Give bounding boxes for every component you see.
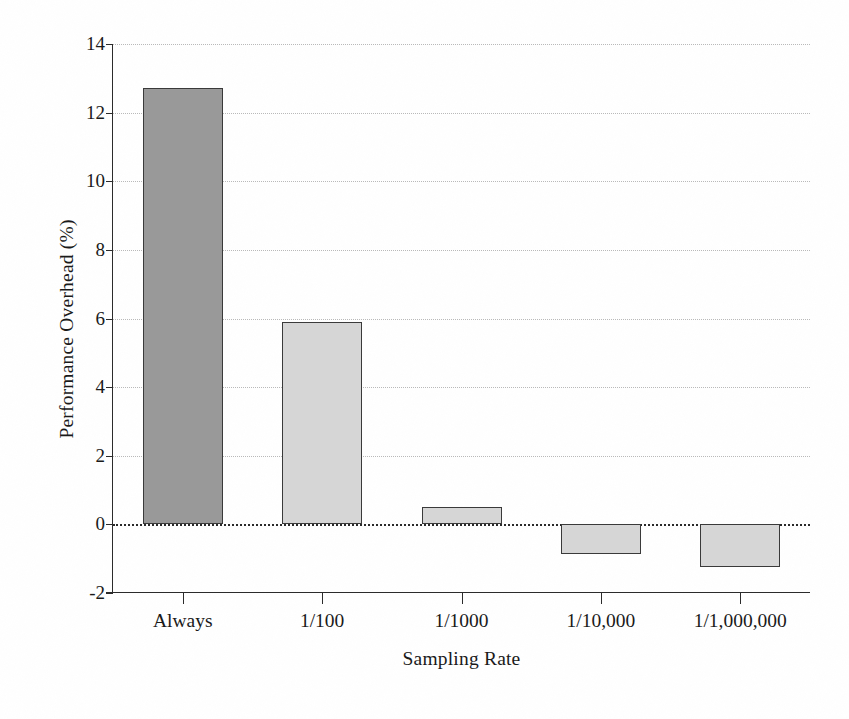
bar-1-1-000-000 — [700, 524, 780, 567]
y-tick-mark — [106, 456, 113, 457]
x-tick-mark — [462, 593, 463, 604]
y-tick-mark — [106, 113, 113, 114]
x-tick-mark — [601, 593, 602, 604]
y-tick-mark — [106, 181, 113, 182]
bar-always — [143, 88, 223, 524]
bar-chart: Performance Overhead (%) Sampling Rate 1… — [0, 0, 849, 719]
y-tick-mark — [106, 593, 113, 594]
y-tick-mark — [106, 524, 113, 525]
y-tick-label: 10 — [45, 170, 105, 192]
bar-1-100 — [282, 322, 362, 524]
plot-area: 14121086420-2 Always1/1001/10001/10,0001… — [113, 44, 810, 593]
y-tick-label: 14 — [45, 33, 105, 55]
y-tick-mark — [106, 319, 113, 320]
y-tick-label: 2 — [45, 445, 105, 467]
x-axis-label: Sampling Rate — [113, 648, 810, 670]
y-tick-label: 0 — [45, 513, 105, 535]
x-tick-mark — [740, 593, 741, 604]
x-tick-mark — [183, 593, 184, 604]
gridline — [113, 44, 810, 45]
y-tick-label: 12 — [45, 102, 105, 124]
bar-1-10-000 — [561, 524, 641, 554]
y-tick-label: 4 — [45, 376, 105, 398]
x-tick-mark — [322, 593, 323, 604]
y-tick-label: 6 — [45, 308, 105, 330]
y-tick-mark — [106, 44, 113, 45]
x-tick-label-1-1-000-000: 1/1,000,000 — [645, 610, 835, 632]
y-tick-mark — [106, 250, 113, 251]
bar-1-1000 — [422, 507, 502, 525]
y-tick-label: -2 — [45, 582, 105, 604]
y-tick-mark — [106, 387, 113, 388]
y-tick-label: 8 — [45, 239, 105, 261]
